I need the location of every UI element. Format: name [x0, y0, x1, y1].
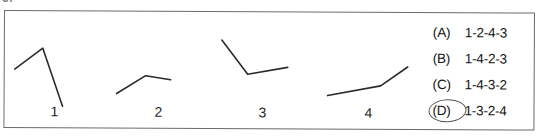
- answer-option-a-letter: (A): [433, 25, 465, 40]
- line-graph-4-svg: [319, 31, 419, 101]
- answer-option-b-letter: (B): [433, 51, 465, 66]
- answer-option-c-letter: (C): [433, 77, 465, 92]
- answer-option-d-letter: (D): [432, 103, 464, 118]
- answer-option-a-sequence: 1-2-4-3: [465, 25, 537, 40]
- line-graph-2-caption: 2: [108, 104, 208, 120]
- line-graph-4: [319, 31, 419, 101]
- line-graph-4-caption: 4: [318, 105, 418, 121]
- line-graph-1: [5, 29, 105, 99]
- line-graph-1-caption: 1: [4, 103, 104, 119]
- line-graph-2-svg: [109, 30, 209, 100]
- line-graph-4-polyline: [328, 67, 408, 96]
- answer-options-list: (A) 1-2-4-3 (B) 1-4-2-3 (C) 1-4-3-2 (D) …: [432, 19, 537, 124]
- answer-option-d[interactable]: (D) 1-3-2-4: [432, 97, 536, 124]
- line-graph-2-polyline: [117, 76, 171, 94]
- line-graph-3-polyline: [222, 40, 288, 74]
- line-graph-1-svg: [5, 29, 105, 99]
- answer-option-b-sequence: 1-4-2-3: [465, 51, 537, 66]
- line-graph-3: [213, 30, 313, 100]
- answer-option-c-sequence: 1-4-3-2: [465, 77, 537, 92]
- answer-option-c[interactable]: (C) 1-4-3-2: [433, 71, 537, 98]
- line-graph-3-svg: [213, 30, 313, 100]
- question-panel: 1 2 3 4 (A) 1-2-4-3 (B) 1-4-2-3: [3, 10, 535, 131]
- answer-option-d-sequence: 1-3-2-4: [464, 103, 536, 118]
- answer-option-a[interactable]: (A) 1-2-4-3: [433, 19, 537, 46]
- stimulus-figures-area: 1 2 3 4: [4, 11, 415, 131]
- line-graph-3-caption: 3: [212, 104, 312, 120]
- answer-option-b[interactable]: (B) 1-4-2-3: [433, 45, 537, 72]
- line-graph-2: [109, 30, 209, 100]
- cropped-question-number: 5.: [2, 0, 24, 5]
- line-graph-1-polyline: [15, 48, 63, 106]
